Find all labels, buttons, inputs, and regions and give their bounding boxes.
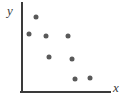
data-point [47, 55, 52, 60]
data-point [66, 34, 71, 39]
data-point [73, 77, 78, 82]
scatter-plot-canvas [0, 0, 129, 106]
scatter-plot-figure: y x [0, 0, 129, 106]
data-point [70, 57, 75, 62]
x-axis-label: x [113, 81, 119, 94]
data-points-group [27, 15, 93, 82]
data-point [34, 15, 39, 20]
data-point [88, 76, 93, 81]
data-point [27, 32, 32, 37]
data-point [44, 34, 49, 39]
y-axis-label: y [7, 4, 13, 17]
